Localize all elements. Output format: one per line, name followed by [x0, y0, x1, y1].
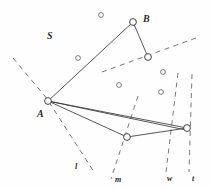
dashed-upper-left [13, 58, 49, 101]
vertex-v2 [124, 134, 131, 141]
scatter-point [159, 90, 164, 95]
edge-a-lower [48, 101, 186, 130]
vertex-v1 [145, 54, 152, 61]
line-label-l: l [75, 163, 77, 171]
vertex-label-a: A [37, 109, 44, 119]
vertex-b [130, 19, 137, 26]
scatter-point [76, 56, 81, 61]
line-label-m: m [115, 176, 121, 184]
scatter-point [99, 13, 104, 18]
edge-a-b [48, 22, 133, 101]
edge-b-v1 [133, 22, 148, 57]
figure-canvas [0, 0, 211, 188]
geometry-figure: S A B l m w t [0, 0, 211, 188]
line-label-w: w [167, 175, 172, 183]
vertex-label-b: B [143, 14, 150, 24]
dashed-line-l [49, 102, 94, 172]
scatter-points-group [76, 13, 166, 95]
vertex-a [45, 98, 52, 105]
vertex-v3 [184, 125, 191, 132]
edge-v2-v3 [127, 128, 187, 137]
solid-edges-group [48, 22, 187, 137]
line-label-t: t [192, 175, 194, 183]
scatter-point [161, 70, 166, 75]
scatter-point [117, 83, 122, 88]
set-label-s: S [47, 31, 53, 41]
dashed-line-t [189, 74, 192, 172]
dashed-line-w [166, 73, 178, 172]
